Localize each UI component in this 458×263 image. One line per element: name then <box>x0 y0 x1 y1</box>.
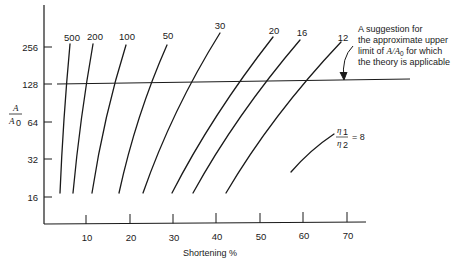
x-tick-30: 30 <box>169 232 180 243</box>
svg-text:1: 1 <box>343 127 348 137</box>
curves <box>60 33 341 193</box>
curve-label-100: 100 <box>119 31 135 42</box>
x-tick-50: 50 <box>256 231 267 242</box>
curve-label-16: 16 <box>297 27 308 38</box>
svg-text:η: η <box>337 138 342 148</box>
curve-label-50: 50 <box>163 30 174 41</box>
svg-text:2: 2 <box>343 140 348 150</box>
curve-50 <box>119 45 167 193</box>
svg-text:A suggestion for: A suggestion for <box>358 24 423 34</box>
curve-label-200: 200 <box>87 31 103 42</box>
y-ticks <box>44 47 52 197</box>
y-tick-16: 16 <box>27 192 38 203</box>
svg-text:= 8: = 8 <box>352 132 365 142</box>
curve-12 <box>226 42 341 193</box>
x-axis-title: Shortening % <box>183 248 237 258</box>
x-tick-40: 40 <box>212 231 223 242</box>
curve-30 <box>143 33 220 193</box>
upper-limit-note: A suggestion for the approximate upper l… <box>358 24 450 67</box>
svg-text:0: 0 <box>16 118 21 128</box>
svg-text:A: A <box>8 116 15 126</box>
upper-limit-line <box>57 79 410 84</box>
svg-text:the approximate upper: the approximate upper <box>358 35 448 45</box>
y-tick-32: 32 <box>27 154 38 165</box>
chart: 256 128 64 32 16 A A 0 10 20 30 40 50 60… <box>0 0 458 263</box>
svg-text:limit of A/A0 for which: limit of A/A0 for which <box>358 46 442 57</box>
viscosity-ratio-label: η 1 η 2 = 8 <box>336 125 365 150</box>
y-axis-title: A A 0 <box>8 103 22 128</box>
curve-500 <box>60 44 70 193</box>
curve-20 <box>172 37 273 193</box>
curve-8 <box>291 134 334 172</box>
arrow-icon <box>340 46 353 80</box>
curve-labels: 500 200 100 50 30 20 16 12 <box>64 20 348 43</box>
curve-16 <box>193 40 300 193</box>
y-tick-64: 64 <box>27 117 38 128</box>
curve-200 <box>73 44 93 193</box>
y-tick-256: 256 <box>22 42 38 53</box>
x-axis <box>44 222 366 224</box>
x-tick-70: 70 <box>343 230 354 241</box>
x-tick-10: 10 <box>82 232 93 243</box>
curve-label-12: 12 <box>338 32 349 43</box>
curve-label-20: 20 <box>269 25 280 36</box>
x-tick-60: 60 <box>299 230 310 241</box>
curve-100 <box>92 45 126 193</box>
y-tick-labels: 256 128 64 32 16 <box>22 42 38 203</box>
curve-label-500: 500 <box>64 32 80 43</box>
svg-text:A: A <box>12 103 19 113</box>
svg-text:the theory is applicable: the theory is applicable <box>358 57 450 67</box>
x-tick-20: 20 <box>126 232 137 243</box>
y-tick-128: 128 <box>22 79 38 90</box>
x-tick-labels: 10 20 30 40 50 60 70 <box>82 230 354 243</box>
curve-label-30: 30 <box>215 20 226 31</box>
svg-text:η: η <box>337 125 342 135</box>
